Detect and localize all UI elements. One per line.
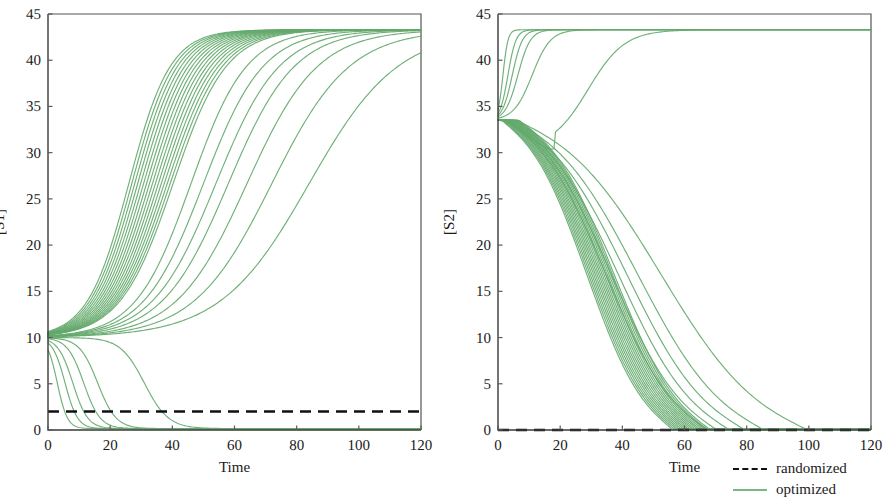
curve-optimized bbox=[48, 341, 421, 429]
y-axis-title: [S2] bbox=[441, 209, 457, 235]
y-tick-label: 25 bbox=[476, 192, 491, 208]
y-tick-label: 10 bbox=[476, 331, 491, 347]
curve-optimized bbox=[48, 338, 421, 429]
x-tick-label: 0 bbox=[494, 438, 502, 454]
y-tick-label: 30 bbox=[26, 146, 41, 162]
curve-optimized bbox=[48, 31, 421, 337]
curve-optimized bbox=[498, 30, 871, 116]
curve-optimized bbox=[498, 30, 871, 114]
legend-label-optimized: optimized bbox=[776, 479, 836, 500]
figure-two-panel-timecourse: 051015202530354045020406080100120Time[S1… bbox=[0, 0, 887, 501]
x-axis-title: Time bbox=[219, 459, 250, 475]
curve-optimized bbox=[498, 30, 871, 110]
y-tick-label: 15 bbox=[476, 284, 491, 300]
panel-s1-svg: 051015202530354045020406080100120Time[S1… bbox=[0, 0, 440, 501]
curve-optimized bbox=[48, 30, 421, 332]
y-tick-label: 0 bbox=[34, 423, 42, 439]
y-tick-label: 20 bbox=[26, 238, 41, 254]
curve-optimized bbox=[48, 30, 421, 333]
y-tick-label: 40 bbox=[476, 53, 491, 69]
y-tick-label: 15 bbox=[26, 284, 41, 300]
y-tick-label: 45 bbox=[26, 7, 41, 23]
x-tick-label: 100 bbox=[348, 438, 371, 454]
x-tick-label: 100 bbox=[798, 438, 821, 454]
y-axis-title: [S1] bbox=[0, 209, 7, 235]
curve-optimized bbox=[48, 339, 421, 429]
curve-optimized bbox=[498, 30, 871, 117]
optimized-curves bbox=[498, 30, 871, 429]
x-tick-label: 0 bbox=[44, 438, 52, 454]
curve-optimized bbox=[48, 30, 421, 336]
legend-item-randomized: randomized bbox=[733, 458, 885, 479]
y-tick-label: 10 bbox=[26, 331, 41, 347]
x-tick-label: 40 bbox=[165, 438, 180, 454]
optimized-curves bbox=[48, 30, 421, 429]
curve-optimized bbox=[48, 30, 421, 336]
axis-lines bbox=[498, 14, 871, 430]
y-tick-label: 25 bbox=[26, 192, 41, 208]
y-tick-label: 40 bbox=[26, 53, 41, 69]
curve-optimized bbox=[498, 120, 871, 429]
panel-s2-svg: 051015202530354045020406080100120Time[S2… bbox=[440, 0, 887, 501]
x-tick-label: 60 bbox=[677, 438, 692, 454]
curve-optimized bbox=[48, 343, 421, 429]
curve-optimized bbox=[498, 30, 871, 118]
legend-label-randomized: randomized bbox=[776, 458, 847, 479]
y-tick-label: 20 bbox=[476, 238, 491, 254]
x-tick-label: 120 bbox=[860, 438, 883, 454]
x-tick-label: 80 bbox=[289, 438, 304, 454]
legend-swatch-solid-line-icon bbox=[733, 489, 767, 491]
x-tick-label: 20 bbox=[553, 438, 568, 454]
axis-lines bbox=[48, 14, 421, 430]
y-tick-label: 35 bbox=[476, 99, 491, 115]
y-tick-label: 30 bbox=[476, 146, 491, 162]
curve-optimized bbox=[48, 30, 421, 333]
plot-frame bbox=[48, 14, 421, 430]
legend-swatch-dashed-line-icon bbox=[733, 468, 767, 470]
curve-optimized bbox=[48, 53, 421, 337]
y-tick-label: 5 bbox=[484, 377, 492, 393]
curve-optimized bbox=[48, 36, 421, 336]
y-tick-label: 35 bbox=[26, 99, 41, 115]
curve-optimized bbox=[48, 338, 421, 429]
x-tick-label: 80 bbox=[739, 438, 754, 454]
panel-s2: 051015202530354045020406080100120Time[S2… bbox=[440, 0, 887, 501]
curve-optimized bbox=[48, 30, 421, 333]
curve-optimized bbox=[498, 30, 871, 149]
legend-item-optimized: optimized bbox=[733, 479, 885, 500]
x-tick-label: 60 bbox=[227, 438, 242, 454]
y-tick-label: 45 bbox=[476, 7, 491, 23]
y-tick-label: 0 bbox=[484, 423, 492, 439]
curve-optimized bbox=[48, 350, 421, 429]
curve-optimized bbox=[48, 30, 421, 332]
x-tick-label: 120 bbox=[410, 438, 433, 454]
y-tick-label: 5 bbox=[34, 377, 42, 393]
curve-optimized bbox=[48, 32, 421, 337]
x-axis-title: Time bbox=[669, 459, 700, 475]
x-tick-label: 20 bbox=[103, 438, 118, 454]
panel-s1: 051015202530354045020406080100120Time[S1… bbox=[0, 0, 440, 501]
plot-frame bbox=[498, 14, 871, 430]
legend: randomized optimized bbox=[733, 458, 885, 501]
x-tick-label: 40 bbox=[615, 438, 630, 454]
